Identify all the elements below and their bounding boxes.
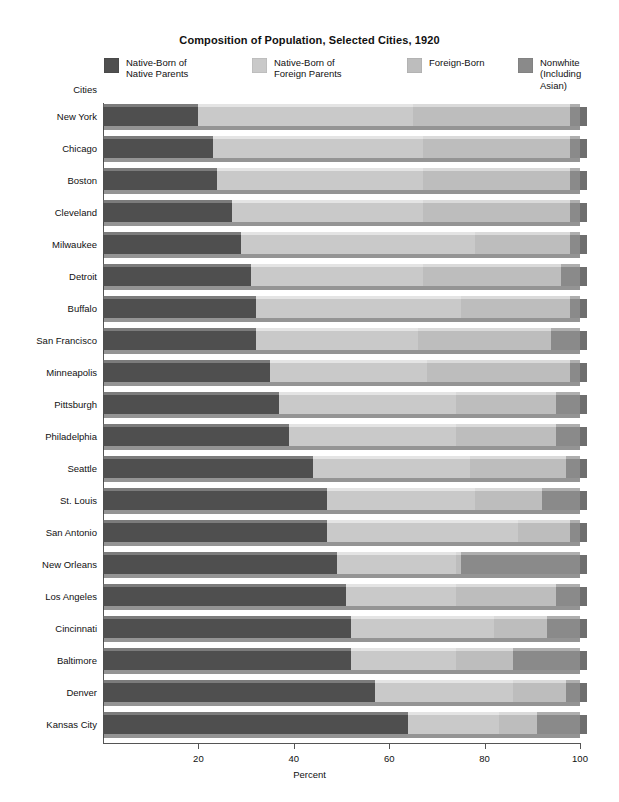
y-axis-tick-label: St. Louis (0, 495, 97, 506)
bar-segment (537, 715, 580, 734)
stacked-bar (103, 555, 580, 577)
y-axis-tick-label: Milwaukee (0, 239, 97, 250)
bar-row (103, 363, 580, 395)
bar-segment (103, 491, 327, 510)
bar-end-cap (580, 619, 587, 638)
bar-row (103, 651, 580, 683)
bar-segment (103, 139, 213, 158)
bar-segment (217, 171, 422, 190)
bar-row (103, 203, 580, 235)
bar-row (103, 331, 580, 363)
bar-segment (456, 587, 556, 606)
bar-segment-top-face (103, 392, 279, 395)
bar-end-cap (580, 555, 587, 574)
x-axis-tick-label: 20 (193, 753, 204, 764)
bar-segment-top-face (570, 520, 580, 523)
bar-row (103, 139, 580, 171)
y-axis-tick-label: Cleveland (0, 207, 97, 218)
bar-segment (103, 299, 256, 318)
y-axis-tick-label: New Orleans (0, 559, 97, 570)
bar-segment-top-face (103, 136, 213, 139)
bar-row (103, 235, 580, 267)
bar-segment-top-face (461, 296, 571, 299)
bar-segment-top-face (103, 616, 351, 619)
legend-item-foreign-born: Foreign-Born (407, 57, 484, 73)
legend-label: Native-Born of Native Parents (126, 57, 188, 80)
bar-segment-top-face (103, 488, 327, 491)
bar-segment (375, 683, 513, 702)
bar-segment-top-face (494, 616, 546, 619)
x-axis-tick-label: 80 (479, 753, 490, 764)
bar-row (103, 299, 580, 331)
bar-depth-shadow (103, 222, 580, 226)
bar-segment-top-face (556, 424, 580, 427)
bar-segment-top-face (313, 456, 470, 459)
y-axis-tick-label: Cincinnati (0, 623, 97, 634)
bar-row (103, 683, 580, 715)
bar-segment (423, 203, 571, 222)
bar-segment-top-face (413, 104, 570, 107)
bar-segment (456, 395, 556, 414)
bar-segment-top-face (103, 520, 327, 523)
stacked-bar (103, 203, 580, 225)
bar-segment (103, 427, 289, 446)
stacked-bar (103, 651, 580, 673)
bar-end-cap (580, 651, 587, 670)
bar-segment (289, 427, 456, 446)
chart-title: Composition of Population, Selected Citi… (0, 34, 619, 46)
x-axis-tick-label: 60 (384, 753, 395, 764)
bar-depth-shadow (103, 286, 580, 290)
stacked-bar (103, 587, 580, 609)
stacked-bar (103, 619, 580, 641)
bar-segment (337, 555, 456, 574)
bar-segment-top-face (327, 520, 518, 523)
bar-depth-shadow (103, 542, 580, 546)
legend-swatch-icon (518, 58, 533, 73)
bar-segment (413, 107, 570, 126)
bar-segment (103, 651, 351, 670)
bar-segment-top-face (351, 616, 494, 619)
bar-segment-top-face (337, 552, 456, 555)
bar-segment-top-face (551, 328, 580, 331)
bar-depth-shadow (103, 670, 580, 674)
stacked-bar (103, 267, 580, 289)
x-axis-tick (580, 743, 581, 749)
bar-segment-top-face (423, 264, 561, 267)
x-axis-title: Percent (0, 769, 619, 780)
bar-segment (327, 523, 518, 542)
bar-end-cap (580, 587, 587, 606)
bar-segment (556, 427, 580, 446)
bar-segment (566, 459, 580, 478)
stacked-bar (103, 107, 580, 129)
bar-segment-top-face (103, 424, 289, 427)
stacked-bar (103, 715, 580, 737)
bar-segment-top-face (547, 616, 580, 619)
bar-segment-top-face (289, 424, 456, 427)
bar-segment (103, 587, 346, 606)
bar-segment (570, 523, 580, 542)
bar-segment-top-face (346, 584, 456, 587)
bar-segment (351, 619, 494, 638)
bar-row (103, 555, 580, 587)
bar-segment (423, 171, 571, 190)
bar-segment (103, 683, 375, 702)
bar-segment (570, 171, 580, 190)
legend-item-nonwhite: Nonwhite (Including Asian) (518, 57, 604, 91)
bar-depth-shadow (103, 574, 580, 578)
bar-segment-top-face (103, 360, 270, 363)
y-axis-tick-label: Kansas City (0, 719, 97, 730)
bar-segment (470, 459, 565, 478)
bar-depth-shadow (103, 606, 580, 610)
legend-item-native-born-foreign-parents: Native-Born of Foreign Parents (252, 57, 342, 80)
bar-segment (570, 203, 580, 222)
legend-swatch-icon (252, 58, 267, 73)
bar-segment (570, 363, 580, 382)
bar-segment-top-face (103, 296, 256, 299)
bar-segment-top-face (570, 296, 580, 299)
legend-label: Nonwhite (Including Asian) (540, 57, 604, 91)
bar-end-cap (580, 683, 587, 702)
bar-segment (327, 491, 475, 510)
bar-segment (461, 299, 571, 318)
bar-segment (256, 299, 461, 318)
bar-depth-shadow (103, 382, 580, 386)
